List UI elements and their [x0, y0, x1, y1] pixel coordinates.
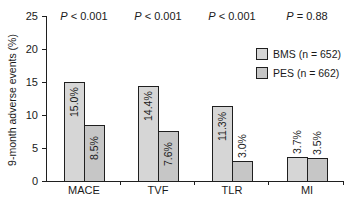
legend-label-bms: BMS (n = 652): [273, 48, 341, 60]
p-value-text: < 0.001: [142, 10, 182, 22]
p-value-text: < 0.001: [68, 10, 108, 22]
x-category-label: MI: [301, 184, 313, 196]
bar-tlr-pes: [232, 161, 253, 182]
bar-value-label: 15.0%: [68, 87, 80, 117]
bar-value-label: 7.6%: [162, 142, 174, 166]
p-value-text: < 0.001: [216, 10, 256, 22]
p-value-annotation: P < 0.001: [134, 10, 181, 22]
bar-value-label: 11.3%: [216, 112, 228, 141]
x-tick: [268, 181, 269, 185]
p-value-text: = 0.88: [294, 10, 328, 22]
bar-value-label: 3.7%: [291, 130, 303, 154]
y-tick-label: 10: [14, 109, 38, 121]
bar-value-label: 3.5%: [311, 131, 323, 155]
bar-mi-bms: [287, 157, 308, 182]
legend-swatch-bms: [256, 48, 268, 60]
bar-mi-pes: [307, 158, 328, 182]
legend-item-pes: PES (n = 662): [256, 63, 341, 82]
y-tick: [42, 115, 46, 116]
y-tick-label: 20: [14, 43, 38, 55]
bar-value-label: 3.0%: [236, 134, 248, 158]
x-tick: [194, 181, 195, 185]
x-category-label: TLR: [222, 184, 243, 196]
x-category-label: MACE: [68, 184, 100, 196]
x-tick: [120, 181, 121, 185]
legend: BMS (n = 652) PES (n = 662): [256, 44, 341, 82]
x-category-label: TVF: [148, 184, 169, 196]
y-tick: [42, 148, 46, 149]
y-tick: [42, 82, 46, 83]
y-tick-label: 5: [14, 142, 38, 154]
bar-chart: 9-month adverse events (%) 0510152025 15…: [0, 0, 353, 203]
legend-item-bms: BMS (n = 652): [256, 44, 341, 63]
y-tick: [42, 49, 46, 50]
y-axis-line: [46, 16, 47, 182]
bar-value-label: 14.4%: [142, 91, 154, 121]
p-value-annotation: P < 0.001: [208, 10, 255, 22]
legend-label-pes: PES (n = 662): [273, 67, 339, 79]
y-tick: [42, 16, 46, 17]
legend-swatch-pes: [256, 67, 268, 79]
bar-value-label: 8.5%: [88, 136, 100, 160]
y-tick-label: 25: [14, 10, 38, 22]
x-tick: [343, 181, 344, 185]
p-value-annotation: P = 0.88: [286, 10, 327, 22]
y-tick: [42, 181, 46, 182]
y-tick-label: 0: [14, 175, 38, 187]
y-tick-label: 15: [14, 76, 38, 88]
p-value-annotation: P < 0.001: [60, 10, 107, 22]
